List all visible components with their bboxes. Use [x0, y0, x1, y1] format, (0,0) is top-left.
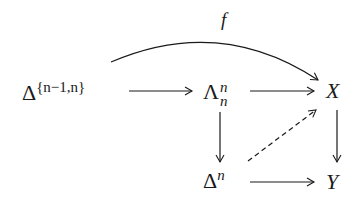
- label-f: f: [221, 10, 226, 29]
- arrow-simplex-to-x-dashed: [248, 110, 316, 161]
- node-simplex: Δn: [203, 168, 225, 192]
- node-delta-boundary-base: Δ: [22, 80, 36, 105]
- node-y: Y: [326, 171, 338, 193]
- node-delta-boundary: Δ{n−1,n}: [22, 80, 85, 104]
- node-simplex-sup: n: [217, 167, 225, 183]
- arrow-f-curved: [111, 42, 318, 80]
- node-simplex-base: Δ: [203, 168, 217, 193]
- node-horn-sub: n: [220, 94, 228, 108]
- node-delta-boundary-sup: {n−1,n}: [36, 79, 85, 95]
- node-horn-base: Λ: [203, 79, 219, 104]
- node-x: X: [326, 80, 339, 102]
- node-horn: Λ n n: [203, 80, 227, 109]
- node-horn-sup: n: [220, 80, 228, 94]
